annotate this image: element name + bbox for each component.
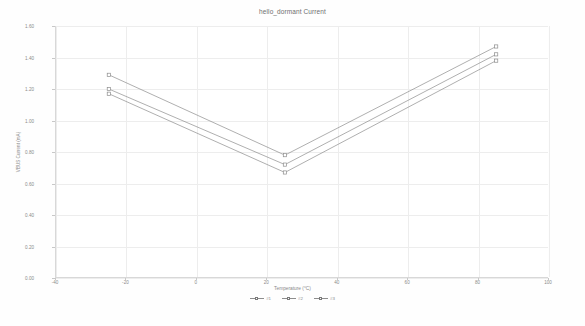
y-axis-tick-label: 0.40 [0, 213, 34, 218]
x-axis-tick-label: 60 [405, 280, 410, 285]
data-point-marker [495, 59, 498, 62]
data-point-marker [107, 92, 110, 95]
x-axis-tick-label: 100 [544, 280, 552, 285]
y-axis-tick-label: 0.00 [0, 276, 34, 281]
gridline-horizontal [56, 278, 548, 279]
x-axis-tick-mark [55, 278, 56, 280]
series-line-n1 [109, 46, 496, 155]
legend-marker-icon [250, 296, 264, 301]
legend-label: #3 [330, 296, 335, 301]
x-axis-tick-label: -20 [122, 280, 129, 285]
y-axis-tick-label: 0.60 [0, 181, 34, 186]
x-axis-tick-label: 40 [334, 280, 339, 285]
y-axis-tick-mark [52, 247, 55, 248]
y-axis-tick-mark [52, 184, 55, 185]
x-axis-tick-mark [125, 278, 126, 280]
y-axis-tick-label: 1.60 [0, 24, 34, 29]
x-axis-tick-label: -40 [52, 280, 59, 285]
x-axis-label: Temperature (°C) [0, 286, 585, 291]
y-axis-tick-mark [52, 152, 55, 153]
line-chart: hello_dormant Current VBUS Current (mA) … [0, 0, 585, 326]
y-axis-tick-label: 1.00 [0, 118, 34, 123]
x-axis-tick-mark [407, 278, 408, 280]
y-axis-tick-mark [52, 58, 55, 59]
legend-item-n2[interactable]: #2 [282, 296, 303, 301]
data-point-marker [283, 163, 286, 166]
y-axis-tick-mark [52, 26, 55, 27]
gridline-vertical [549, 26, 550, 277]
legend-item-n3[interactable]: #3 [314, 296, 335, 301]
data-point-marker [495, 53, 498, 56]
x-axis-tick-label: 20 [264, 280, 269, 285]
y-axis-tick-mark [52, 89, 55, 90]
data-point-marker [107, 87, 110, 90]
series-lines [56, 26, 549, 278]
x-axis-tick-mark [548, 278, 549, 280]
y-axis-tick-mark [52, 121, 55, 122]
x-axis-tick-mark [478, 278, 479, 280]
legend-label: #1 [266, 296, 271, 301]
x-axis-tick-mark [266, 278, 267, 280]
y-axis-tick-mark [52, 215, 55, 216]
y-axis-tick-label: 1.20 [0, 87, 34, 92]
chart-title: hello_dormant Current [0, 8, 585, 15]
data-point-marker [495, 45, 498, 48]
x-axis-tick-label: 0 [195, 280, 198, 285]
chart-legend: #1#2#3 [0, 296, 585, 301]
x-axis-tick-mark [196, 278, 197, 280]
data-point-marker [283, 171, 286, 174]
data-point-marker [107, 73, 110, 76]
legend-marker-icon [314, 296, 328, 301]
x-axis-tick-mark [337, 278, 338, 280]
legend-label: #2 [298, 296, 303, 301]
data-point-marker [283, 154, 286, 157]
y-axis-tick-label: 1.40 [0, 55, 34, 60]
series-line-n2 [109, 54, 496, 164]
legend-item-n1[interactable]: #1 [250, 296, 271, 301]
y-axis-tick-label: 0.80 [0, 150, 34, 155]
plot-area [55, 26, 548, 278]
legend-marker-icon [282, 296, 296, 301]
y-axis-tick-label: 0.20 [0, 244, 34, 249]
x-axis-tick-label: 80 [475, 280, 480, 285]
